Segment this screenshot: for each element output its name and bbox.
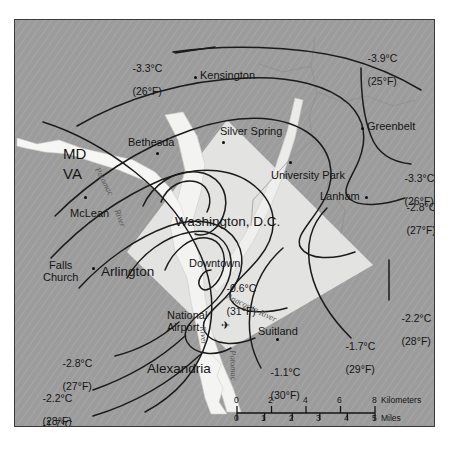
- map-graphics: [15, 20, 433, 425]
- city-dot-suitland: [276, 338, 279, 341]
- city-dot-bethesda: [156, 152, 159, 155]
- city-dot-lanham: [365, 196, 368, 199]
- city-dot-silver-spring: [222, 141, 225, 144]
- city-dot-greenbelt: [361, 127, 364, 130]
- airport-plane-icon: ✈: [221, 320, 230, 331]
- map-page: MD VA Kensington Bethesda Silver Spring …: [0, 0, 449, 454]
- city-dot-kensington: [194, 76, 197, 79]
- city-dot-mclean: [84, 196, 87, 199]
- city-dot-university-park: [289, 161, 292, 164]
- city-dot-falls-church: [92, 267, 95, 270]
- map-frame: MD VA Kensington Bethesda Silver Spring …: [14, 19, 435, 427]
